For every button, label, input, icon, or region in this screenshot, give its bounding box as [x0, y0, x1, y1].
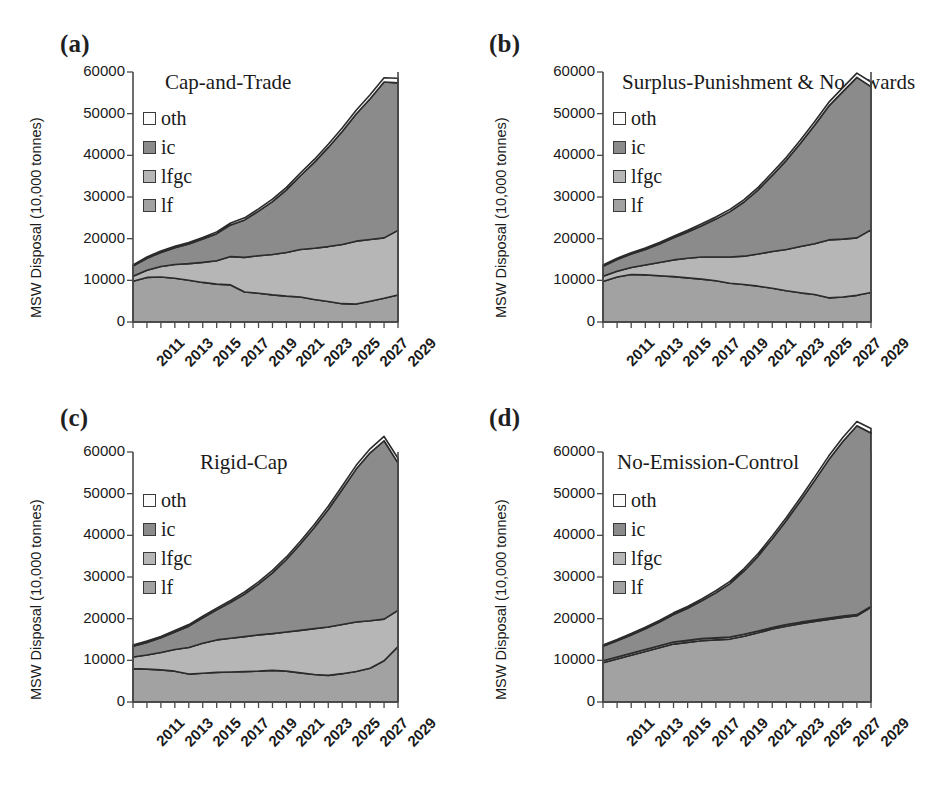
figure-grid: (a) Cap-and-Trade MSW Disposal (10,000 t… [0, 0, 935, 808]
y-tick-label: 0 [519, 312, 595, 329]
y-tick-label: 40000 [49, 525, 125, 542]
y-tick-label: 20000 [519, 229, 595, 246]
panel-c: (c) Rigid-Cap MSW Disposal (10,000 tonne… [0, 400, 467, 808]
y-tick-label: 50000 [519, 484, 595, 501]
y-tick-label: 40000 [49, 145, 125, 162]
y-tick-label: 60000 [49, 62, 125, 79]
plot-area-c [0, 400, 467, 808]
y-tick-label: 0 [49, 312, 125, 329]
y-tick-label: 20000 [49, 609, 125, 626]
y-tick-label: 60000 [519, 62, 595, 79]
y-tick-label: 10000 [519, 650, 595, 667]
y-tick-label: 60000 [519, 442, 595, 459]
y-tick-label: 30000 [49, 187, 125, 204]
y-tick-label: 10000 [519, 270, 595, 287]
y-tick-label: 0 [519, 692, 595, 709]
y-tick-label: 30000 [49, 567, 125, 584]
y-tick-label: 20000 [49, 229, 125, 246]
y-tick-label: 40000 [519, 145, 595, 162]
y-tick-label: 50000 [49, 104, 125, 121]
y-tick-label: 50000 [519, 104, 595, 121]
y-tick-label: 40000 [519, 525, 595, 542]
y-tick-label: 30000 [519, 567, 595, 584]
y-tick-label: 10000 [49, 270, 125, 287]
panel-b: (b) Surplus-Punishment & No-Awards MSW D… [467, 0, 935, 400]
y-tick-label: 50000 [49, 484, 125, 501]
y-tick-label: 20000 [519, 609, 595, 626]
y-tick-label: 0 [49, 692, 125, 709]
y-tick-label: 30000 [519, 187, 595, 204]
panel-d: (d) No-Emission-Control MSW Disposal (10… [467, 400, 935, 808]
plot-area-d [467, 400, 935, 808]
panel-a: (a) Cap-and-Trade MSW Disposal (10,000 t… [0, 0, 467, 400]
y-tick-label: 10000 [49, 650, 125, 667]
y-tick-label: 60000 [49, 442, 125, 459]
